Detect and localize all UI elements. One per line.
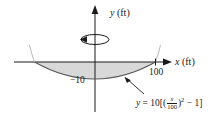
equation-annotation: y = 10[(x100)2 − 1]: [136, 96, 202, 111]
x-axis-label: x (ft): [175, 57, 195, 67]
equation-close-bracket: ]: [199, 98, 202, 108]
x-axis-label-unit: (ft): [182, 56, 195, 67]
parabola-curve-left-extension: [30, 45, 35, 62]
figure-container: y (ft) x (ft) 100 −10 y = 10[(x100)2 − 1…: [0, 0, 218, 121]
y-axis-label: y (ft): [110, 8, 130, 18]
x-axis-arrowhead: [163, 59, 172, 66]
equation-leader-line: [127, 79, 144, 94]
equation-leader-arrowhead: [125, 77, 131, 83]
equation-coefficient: 10: [150, 98, 160, 108]
y-tick-label-minus-10: −10: [70, 76, 85, 86]
parabola-curve-right-extension: [156, 45, 161, 62]
equation-denominator: 100: [167, 104, 178, 111]
equation-fraction: x100: [167, 96, 178, 111]
x-tick-label-100: 100: [149, 68, 163, 78]
rotation-arrowhead-icon: [80, 36, 87, 42]
y-axis-arrowhead: [92, 5, 99, 14]
y-axis-label-unit: (ft): [117, 7, 130, 18]
